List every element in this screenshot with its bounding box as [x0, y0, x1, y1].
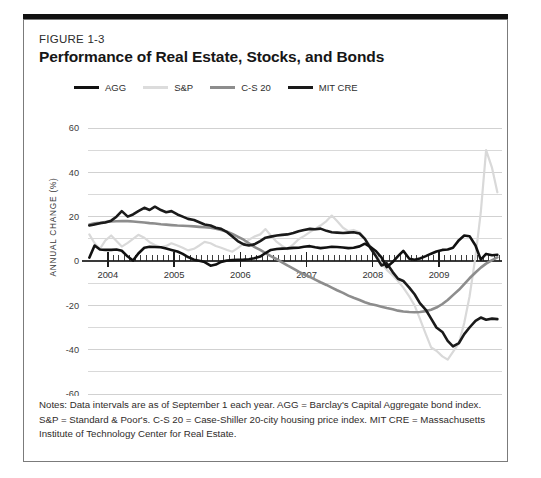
- x-axis-tick-label: 2005: [164, 269, 185, 280]
- x-axis-tick-label: 2004: [97, 269, 118, 280]
- chart-svg: 6040200-20-40-60200420052006200720082009: [24, 106, 507, 396]
- series-line-agg: [89, 236, 497, 268]
- y-axis-title: ANNUAL CHANGE (%): [48, 152, 58, 302]
- y-axis-tick-label: -60: [66, 389, 79, 396]
- figure-number: FIGURE 1-3: [39, 33, 105, 45]
- y-axis-tick-label: 40: [69, 168, 79, 178]
- series-line-c-s-20: [89, 221, 497, 312]
- legend-label: MIT CRE: [319, 82, 358, 93]
- figure-notes: Notes: Data intervals are as of Septembe…: [39, 398, 491, 442]
- legend-swatch-icon: [288, 86, 313, 89]
- legend-item-agg: AGG: [74, 82, 126, 93]
- legend-label: C-S 20: [241, 82, 271, 93]
- legend-item-s-p: S&P: [143, 82, 193, 93]
- x-axis-tick-label: 2008: [362, 269, 383, 280]
- legend-item-c-s-20: C-S 20: [210, 82, 271, 93]
- figure-title: Performance of Real Estate, Stocks, and …: [39, 48, 384, 66]
- figure-container: FIGURE 1-3 Performance of Real Estate, S…: [23, 19, 508, 462]
- y-axis-tick-label: 60: [69, 123, 79, 133]
- y-axis-tick-label: 20: [69, 212, 79, 222]
- y-axis-tick-label: 0: [74, 256, 79, 266]
- chart-legend: AGGS&PC-S 20MIT CRE: [74, 82, 358, 93]
- legend-label: AGG: [105, 82, 126, 93]
- legend-swatch-icon: [210, 86, 235, 89]
- x-axis-tick-label: 2009: [429, 269, 450, 280]
- legend-swatch-icon: [74, 86, 99, 89]
- legend-label: S&P: [174, 82, 193, 93]
- x-axis-tick-label: 2006: [230, 269, 251, 280]
- chart-plot-area: 6040200-20-40-60200420052006200720082009…: [24, 106, 507, 396]
- legend-item-mit-cre: MIT CRE: [288, 82, 358, 93]
- y-axis-tick-label: -20: [66, 301, 79, 311]
- legend-swatch-icon: [143, 86, 168, 88]
- y-axis-tick-label: -40: [66, 345, 79, 355]
